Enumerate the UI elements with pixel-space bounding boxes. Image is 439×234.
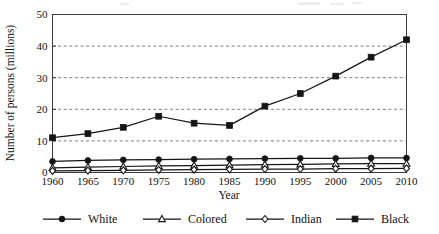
- x-tick-label-1985: 1985: [219, 175, 242, 187]
- legend-label-indian: Indian: [291, 212, 322, 226]
- legend-item-indian[interactable]: Indian: [246, 212, 322, 226]
- y-tick-label-10: 10: [37, 135, 49, 147]
- legend-item-colored[interactable]: Colored: [143, 212, 227, 226]
- data-series-layer: [49, 37, 410, 175]
- x-tick-label-1980: 1980: [183, 175, 206, 187]
- legend-label-black: Black: [381, 212, 409, 226]
- x-axis-title: Year: [218, 189, 239, 201]
- datapoint-black-2010: [404, 37, 410, 43]
- datapoint-black-1990: [262, 103, 268, 109]
- y-tick-label-50: 50: [37, 8, 49, 20]
- x-tick-label-1975: 1975: [148, 175, 171, 187]
- datapoint-black-2000: [333, 73, 339, 79]
- datapoint-black-1965: [85, 131, 91, 137]
- legend-label-white: White: [88, 212, 117, 226]
- y-tick-label-40: 40: [37, 40, 49, 52]
- y-axis-title: Number of persons (millions): [4, 25, 17, 162]
- legend-marker-white: [59, 216, 65, 222]
- datapoint-black-1960: [50, 135, 56, 141]
- x-tick-label-2000: 2000: [325, 175, 348, 187]
- y-tick-label-20: 20: [37, 103, 49, 115]
- x-tick-label-1995: 1995: [289, 175, 312, 187]
- scan-artifacts: [120, 2, 362, 5]
- datapoint-black-1995: [297, 91, 303, 97]
- plot-area-frame: [53, 15, 407, 173]
- datapoint-black-1975: [156, 113, 162, 119]
- x-tick-label-2005: 2005: [360, 175, 383, 187]
- x-tick-label-1970: 1970: [112, 175, 135, 187]
- legend-marker-black: [352, 216, 358, 222]
- x-tick-label-1960: 1960: [42, 175, 65, 187]
- x-tick-label-1990: 1990: [254, 175, 277, 187]
- series-black: [50, 37, 410, 141]
- datapoint-black-1980: [191, 120, 197, 126]
- x-tick-label-1965: 1965: [77, 175, 100, 187]
- x-tick-label-2010: 2010: [396, 175, 419, 187]
- y-axis: 01020304050: [37, 8, 57, 178]
- y-tick-label-30: 30: [37, 72, 49, 84]
- legend-marker-indian: [262, 216, 268, 223]
- chart-figure: 01020304050 1960196519701975198019851990…: [0, 0, 439, 234]
- datapoint-black-1970: [120, 124, 126, 130]
- datapoint-black-2005: [368, 54, 374, 60]
- legend-item-white[interactable]: White: [43, 212, 117, 226]
- datapoint-black-1985: [227, 123, 233, 129]
- line-chart: 01020304050 1960196519701975198019851990…: [0, 0, 439, 234]
- chart-legend: WhiteColoredIndianBlack: [43, 212, 409, 226]
- legend-label-colored: Colored: [188, 212, 227, 226]
- legend-item-black[interactable]: Black: [336, 212, 409, 226]
